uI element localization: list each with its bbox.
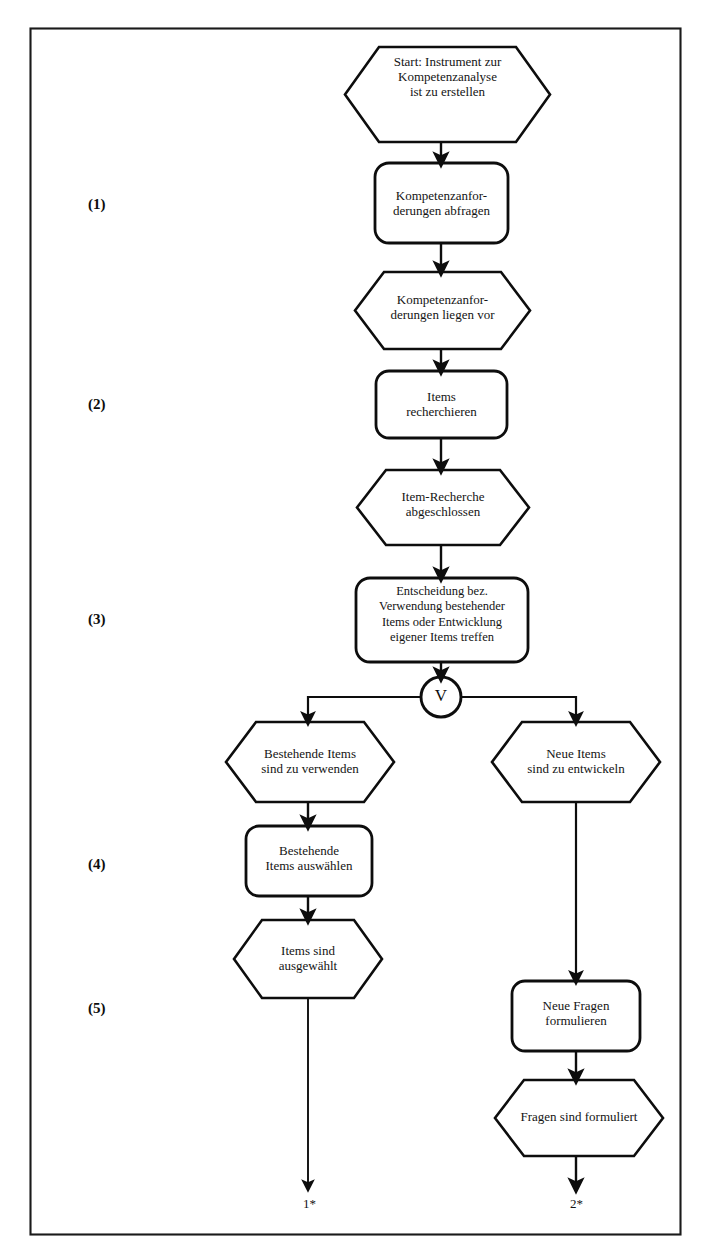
shape-event-fragen-sind-formuliert [495,1080,663,1156]
shape-function-items-recherchieren [376,371,507,438]
stage-label-2: (2) [88,396,106,413]
stage-label-3: (3) [88,611,106,628]
diagram-canvas: Start: Instrument zur Kompetenzanalyse i… [0,0,705,1260]
xor-connector-label: V [421,686,461,706]
shape-function-entscheidung-treffen [356,578,528,662]
shape-start-event [345,47,550,142]
exit-connector-label-2: 2* [570,1196,583,1212]
shape-event-neue-items-entwickeln [492,722,660,802]
flowchart-svg [0,0,705,1260]
edge-connector-to-neue [461,697,576,719]
stage-label-4: (4) [88,856,106,873]
shape-event-kompetenzanforderungen-liegen-vor [355,272,530,349]
shape-function-neue-fragen-formulieren [512,981,640,1051]
edge-connector-to-bestehende [308,697,421,719]
shape-event-item-recherche-abgeschlossen [357,470,529,545]
shape-event-items-sind-ausgewaehlt [234,920,382,998]
shape-function-bestehende-items-auswaehlen [246,826,372,896]
shape-function-kompetenzanforderungen-abfragen [375,163,508,243]
shape-event-bestehende-items-verwenden [226,722,394,802]
exit-connector-label-1: 1* [303,1196,316,1212]
stage-label-5: (5) [88,1000,106,1017]
stage-label-1: (1) [88,196,106,213]
